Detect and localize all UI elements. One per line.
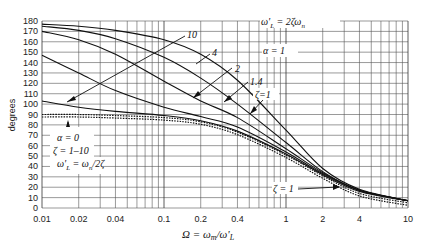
- y-axis-label: degrees: [7, 98, 17, 131]
- y-tick-label: 20: [28, 182, 38, 192]
- y-tick-label: 0: [33, 203, 38, 213]
- zeta-4-label: 4: [212, 47, 217, 58]
- zeta-10-label: 10: [187, 29, 197, 40]
- zeta-range-label: ζ = 1–10: [53, 145, 89, 157]
- x-tick-label: 0.2: [194, 214, 207, 224]
- phase-chart: 0102030405060708090100110120130140150160…: [0, 0, 425, 249]
- x-tick-label: 1: [283, 214, 288, 224]
- series-curve: [42, 24, 408, 201]
- y-tick-labels: 0102030405060708090100110120130140150160…: [23, 16, 38, 213]
- x-tick-label: 0.4: [231, 214, 244, 224]
- series-curve: [42, 101, 408, 201]
- x-tick-label: 2: [320, 214, 325, 224]
- x-tick-label: 0.04: [107, 214, 125, 224]
- zeta-1-lower-label: ζ = 1: [273, 183, 294, 195]
- y-tick-label: 150: [23, 47, 38, 57]
- y-tick-label: 160: [23, 37, 38, 47]
- y-tick-label: 60: [28, 141, 38, 151]
- y-tick-label: 80: [28, 120, 38, 130]
- y-tick-label: 120: [23, 78, 38, 88]
- y-tick-label: 180: [23, 16, 38, 26]
- x-tick-label: 10: [403, 214, 413, 224]
- arrows: [66, 36, 340, 190]
- zeta-1-label: ζ=1: [255, 89, 271, 101]
- alpha-1-label: α = 1: [263, 45, 285, 56]
- x-tick-label: 0.1: [158, 214, 171, 224]
- y-tick-label: 10: [28, 193, 38, 203]
- y-tick-label: 170: [23, 26, 38, 36]
- x-axis-label: Ω = ωm/ω'L: [182, 228, 235, 242]
- y-tick-label: 130: [23, 68, 38, 78]
- y-tick-label: 140: [23, 58, 38, 68]
- series-curve: [42, 31, 408, 200]
- y-tick-label: 40: [28, 161, 38, 171]
- x-tick-label: 4: [357, 214, 362, 224]
- y-tick-label: 50: [28, 151, 38, 161]
- zeta-14-label: 1.4: [250, 76, 263, 87]
- x-tick-label: 0.02: [70, 214, 88, 224]
- x-tick-label: 0.01: [33, 214, 51, 224]
- zeta-2-label: 2: [235, 63, 240, 74]
- y-tick-label: 70: [28, 130, 38, 140]
- y-tick-label: 30: [28, 172, 38, 182]
- alpha-0-label: α = 0: [57, 132, 79, 143]
- y-tick-label: 90: [28, 110, 38, 120]
- y-tick-label: 100: [23, 99, 38, 109]
- x-tick-labels: 0.010.020.040.10.20.412410: [33, 214, 413, 224]
- y-tick-label: 110: [24, 89, 38, 99]
